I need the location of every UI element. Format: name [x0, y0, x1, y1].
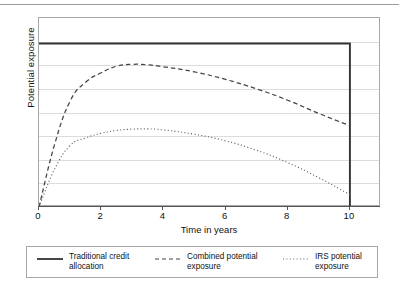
chart-figure: Potential exposure 0246810 Time in years…: [0, 0, 399, 289]
x-tick-label: 2: [98, 210, 103, 221]
x-tick-label: 0: [35, 210, 40, 221]
x-tick-label: 10: [344, 210, 355, 221]
legend-label: Combined potential exposure: [187, 252, 258, 272]
y-axis-title: Potential exposure: [25, 0, 36, 148]
x-axis-line: [38, 206, 380, 207]
legend-swatch-dotted-icon: [283, 254, 309, 264]
legend-swatch-dashed-icon: [155, 254, 181, 264]
legend-label: IRS potential exposure: [315, 252, 362, 272]
series-line-0: [39, 44, 350, 207]
x-axis-title: Time in years: [38, 224, 380, 235]
series-canvas: [39, 18, 381, 207]
legend-swatch-solid-icon: [37, 254, 63, 264]
series-line-1: [39, 64, 350, 207]
plot-inner: [39, 18, 379, 205]
x-tick-label: 4: [160, 210, 165, 221]
legend-item-combined-potential-exposure[interactable]: Combined potential exposure: [155, 252, 281, 272]
plot-area: [38, 17, 380, 206]
legend-item-irs-potential-exposure[interactable]: IRS potential exposure: [283, 252, 379, 272]
chart-legend: Traditional credit allocation Combined p…: [26, 246, 378, 278]
series-line-2: [39, 129, 350, 207]
x-tick-label: 6: [222, 210, 227, 221]
legend-item-traditional-credit-allocation[interactable]: Traditional credit allocation: [37, 252, 147, 272]
legend-label: Traditional credit allocation: [69, 252, 129, 272]
x-tick-label: 8: [284, 210, 289, 221]
